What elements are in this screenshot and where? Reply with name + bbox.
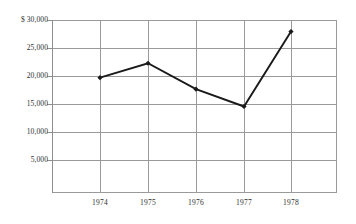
gridline-horizontal-30000 — [52, 20, 337, 21]
gridline-vertical-1975 — [148, 20, 149, 193]
gridline-horizontal-15000 — [52, 104, 337, 105]
y-tick-label-5000: 5,000 — [2, 155, 48, 164]
gridline-horizontal-20000 — [52, 76, 337, 77]
y-tick-label-30000: $ 30,000 — [2, 15, 48, 24]
line-chart: $ 30,000 25,000 20,000 15,000 10,000 5,0… — [0, 0, 356, 224]
y-tick-label-20000: 20,000 — [2, 71, 48, 80]
y-tick-label-15000: 15,000 — [2, 99, 48, 108]
plot-area — [52, 20, 337, 193]
x-tick-label-1974: 1974 — [80, 198, 120, 207]
gridline-horizontal-25000 — [52, 48, 337, 49]
gridline-vertical-1976 — [196, 20, 197, 193]
gridline-vertical-1974 — [100, 20, 101, 193]
y-axis-line — [52, 20, 53, 193]
x-tick-label-1977: 1977 — [224, 198, 264, 207]
gridline-horizontal-5000 — [52, 160, 337, 161]
x-tick-label-1978: 1978 — [271, 198, 311, 207]
x-tick-label-1976: 1976 — [176, 198, 216, 207]
y-tick-label-25000: 25,000 — [2, 43, 48, 52]
gridline-vertical-1977 — [244, 20, 245, 193]
gridline-horizontal-10000 — [52, 132, 337, 133]
y-tick-label-10000: 10,000 — [2, 127, 48, 136]
gridline-vertical-1978 — [291, 20, 292, 193]
x-tick-label-1975: 1975 — [128, 198, 168, 207]
